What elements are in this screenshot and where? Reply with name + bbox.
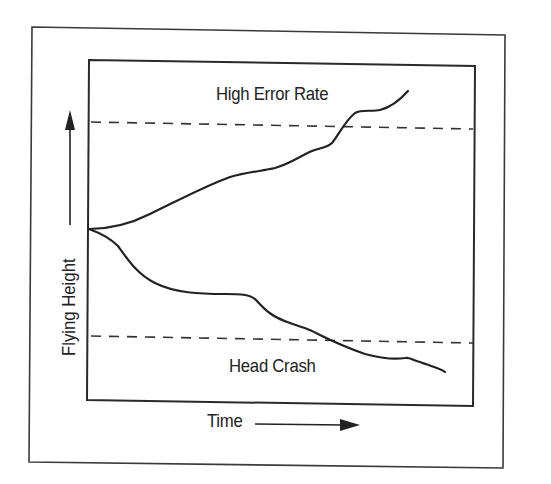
falling-curve bbox=[89, 229, 445, 372]
high-error-threshold-line bbox=[91, 122, 473, 129]
y-axis-label: Flying Height bbox=[58, 258, 80, 356]
y-axis-arrowhead-icon bbox=[65, 110, 75, 130]
x-axis-arrow-shaft bbox=[255, 424, 345, 425]
flying-height-diagram bbox=[0, 0, 551, 484]
head-crash-label: Head Crash bbox=[229, 355, 316, 377]
x-axis-label: Time bbox=[207, 410, 242, 432]
rising-curve bbox=[89, 91, 408, 229]
head-crash-threshold-line bbox=[91, 336, 473, 343]
high-error-rate-label: High Error Rate bbox=[216, 83, 328, 105]
x-axis-arrowhead-icon bbox=[340, 419, 360, 431]
